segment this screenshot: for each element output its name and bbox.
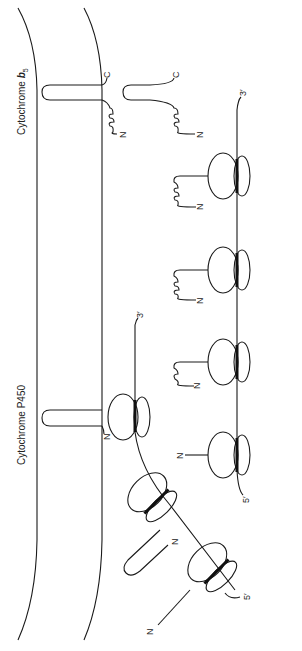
svg-text:5′: 5′	[242, 593, 252, 600]
svg-text:C: C	[171, 71, 181, 78]
svg-text:N: N	[118, 132, 128, 139]
svg-text:3′: 3′	[238, 89, 248, 96]
membrane-inner-line	[84, 8, 102, 640]
free-ribosome-4: N	[175, 432, 250, 478]
label-cytochrome-p450: Cytochrome P450	[16, 385, 27, 465]
svg-text:N: N	[192, 383, 202, 390]
free-ribosome-1: N	[174, 153, 250, 210]
svg-text:N: N	[175, 453, 185, 460]
svg-text:Cytochrome P450: Cytochrome P450	[16, 385, 27, 465]
cytochrome-b5-protein-2: C N	[123, 71, 205, 138]
bound-ribosome-1	[108, 394, 150, 440]
free-ribosome-3: N	[174, 339, 250, 389]
nascent-chain-hairpin	[124, 530, 168, 575]
svg-text:N: N	[170, 539, 180, 546]
svg-text:5′: 5′	[241, 496, 251, 503]
svg-text:3′: 3′	[135, 311, 145, 318]
mrna-bound-strand	[135, 318, 138, 400]
svg-text:N: N	[195, 298, 205, 305]
cytochrome-b5-protein-1: C N	[42, 71, 128, 138]
svg-text:N: N	[195, 132, 205, 139]
bound-ribosome-2	[120, 465, 183, 528]
svg-text:N: N	[145, 629, 155, 636]
nascent-chain-straight	[158, 590, 190, 625]
svg-text:C: C	[102, 71, 112, 78]
svg-text:N: N	[195, 204, 205, 211]
svg-text:Cytochrome b5: Cytochrome b5	[16, 68, 29, 135]
svg-text:N: N	[102, 434, 112, 441]
label-cytochrome-b5: Cytochrome b5	[16, 68, 29, 135]
free-ribosome-2: N	[174, 247, 250, 304]
protein-targeting-diagram: Cytochrome b5 Cytochrome P450 C N C N N …	[0, 0, 302, 651]
